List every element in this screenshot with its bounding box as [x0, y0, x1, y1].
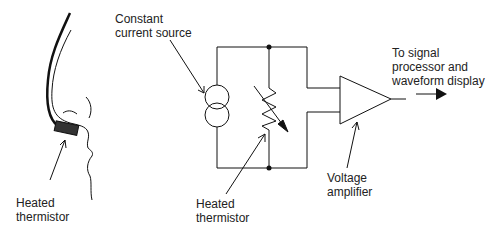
circuit-wires — [217, 47, 340, 168]
circuit-thermistor-pointer-arrow — [226, 134, 265, 194]
current-source-label: Constant current source — [115, 12, 192, 40]
current-source-pointer-arrow — [170, 40, 204, 93]
nose-thermistor-icon — [54, 121, 79, 136]
nose-thermistor-label: Heated thermistor — [16, 196, 69, 224]
output-arrow-icon — [416, 88, 447, 100]
variable-resistor-icon — [254, 86, 288, 132]
amplifier-label: Voltage amplifier — [327, 171, 372, 199]
nose-thermistor-pointer-arrow — [50, 140, 66, 180]
circuit-thermistor-label: Heated thermistor — [196, 197, 249, 225]
current-source-icon — [205, 85, 229, 127]
diagram-graphics — [0, 0, 498, 229]
amplifier-pointer-arrow — [347, 122, 359, 168]
thermistor-circuit-diagram: Heated thermistor Constant current sourc… — [0, 0, 498, 229]
output-label: To signal processor and waveform display — [392, 46, 485, 88]
face-profile — [47, 13, 92, 200]
